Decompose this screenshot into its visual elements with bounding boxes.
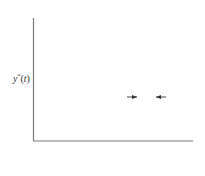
y-axis-label: y*(t) (12, 73, 30, 85)
stem-chart: y*(t) (0, 0, 205, 176)
delta-t-annotation (0, 0, 166, 99)
